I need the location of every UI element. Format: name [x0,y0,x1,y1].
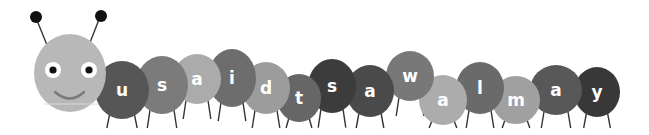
segment-letter: i [229,68,235,88]
leg [208,99,211,119]
leg [396,96,399,116]
segment-letter: s [327,76,337,96]
leg [607,112,610,128]
right-pupil-icon [85,66,92,73]
segment-letter: w [402,66,418,86]
segment-letter: m [507,90,525,110]
leg [318,108,321,128]
leg [491,109,494,128]
leg [466,109,469,128]
leg [277,109,280,128]
segment-letter: s [157,75,167,95]
segment-letter: a [191,69,202,89]
leg [147,108,150,128]
segment-letter: a [437,90,448,110]
segment-letter: u [116,80,128,100]
segment-letter: l [477,78,483,98]
segment-letter: t [295,88,303,108]
leg [541,110,544,128]
left-pupil-icon [49,66,56,73]
leg [568,110,571,128]
right-antenna-ball-icon [95,10,107,22]
caterpillar-body-segments: yamlawastdiasu [95,49,620,125]
leg [252,109,255,128]
leg [183,99,186,119]
caterpillar-head [30,10,107,112]
segment-letter: a [364,81,375,101]
leg [343,108,346,128]
leg [381,112,384,128]
left-antenna-ball-icon [30,11,42,23]
segment-letter: d [260,78,272,98]
caterpillar-illustration: yamlawastdiasu [0,0,649,135]
leg [243,101,246,121]
leg [218,101,221,121]
leg [356,112,359,128]
leg [584,112,587,128]
leg [174,108,177,128]
segment-letter: y [591,82,602,102]
segment-letter: a [550,80,561,100]
